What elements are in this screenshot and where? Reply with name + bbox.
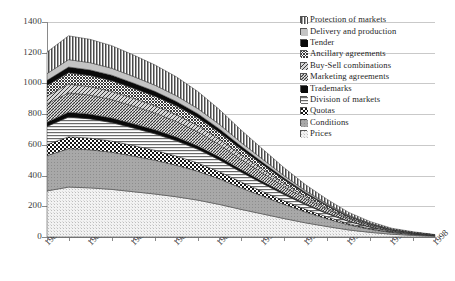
legend-item[interactable]: Ancillary agreements (300, 48, 452, 59)
legend-swatch-icon (300, 50, 307, 57)
legend-item-label: Division of markets (310, 95, 380, 104)
legend-item[interactable]: Protection of markets (300, 14, 452, 25)
legend-item[interactable]: Quotas (300, 105, 452, 116)
legend-item-label: Quotas (310, 106, 335, 115)
legend-item-label: Delivery and production (310, 27, 396, 36)
legend-item[interactable]: Delivery and production (300, 25, 452, 36)
legend-swatch-icon (300, 28, 307, 35)
legend-item[interactable]: Prices (300, 128, 452, 139)
legend: Protection of marketsDelivery and produc… (300, 14, 452, 139)
legend-item[interactable]: Conditions (300, 117, 452, 128)
legend-item-label: Ancillary agreements (310, 49, 386, 58)
legend-swatch-icon (300, 119, 307, 126)
legend-item[interactable]: Division of markets (300, 94, 452, 105)
legend-swatch-icon (300, 130, 307, 137)
legend-item[interactable]: Buy-Sell combinations (300, 60, 452, 71)
legend-item-label: Buy-Sell combinations (310, 61, 391, 70)
legend-item[interactable]: Tender (300, 37, 452, 48)
legend-swatch-icon (300, 62, 307, 69)
legend-swatch-icon (300, 96, 307, 103)
legend-item-label: Tender (310, 38, 334, 47)
legend-item-label: Protection of markets (310, 15, 386, 24)
legend-swatch-icon (300, 107, 307, 114)
legend-item-label: Trademarks (310, 84, 352, 93)
legend-swatch-icon (300, 73, 307, 80)
legend-item-label: Marketing agreements (310, 72, 389, 81)
legend-swatch-icon (300, 85, 307, 92)
legend-item-label: Prices (310, 129, 332, 138)
legend-swatch-icon (300, 16, 307, 23)
legend-item-label: Conditions (310, 118, 349, 127)
legend-item[interactable]: Trademarks (300, 82, 452, 93)
stacked-area-chart: 0200400600800100012001400 19801982198419… (0, 0, 455, 281)
legend-swatch-icon (300, 39, 307, 46)
legend-item[interactable]: Marketing agreements (300, 71, 452, 82)
